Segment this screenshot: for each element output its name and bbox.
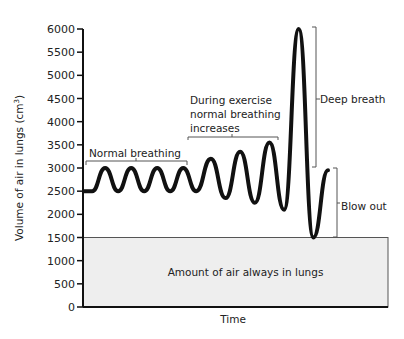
residual-volume-label: Amount of air always in lungs	[168, 266, 324, 278]
normal-breathing-bracket	[86, 158, 187, 165]
blow-out-bracket	[333, 168, 340, 237]
y-tick-label: 6000	[47, 23, 75, 36]
exercise-label-line3: increases	[190, 122, 240, 134]
x-axis-label: Time	[219, 313, 246, 325]
exercise-label-line2: normal breathing	[190, 108, 281, 120]
y-tick-label: 2500	[47, 185, 75, 198]
y-tick-label: 1500	[47, 232, 75, 245]
y-tick-label: 3500	[47, 139, 75, 152]
y-tick-label: 5000	[47, 69, 75, 82]
normal-breathing-label: Normal breathing	[89, 147, 181, 159]
lung-volume-chart: Amount of air always in lungs 0500100015…	[0, 0, 404, 339]
y-tick-label: 4500	[47, 93, 75, 106]
y-tick-label: 500	[54, 278, 75, 291]
y-tick-label: 5500	[47, 46, 75, 59]
blow-out-label: Blow out	[341, 200, 387, 212]
exercise-bracket	[188, 134, 278, 140]
y-tick-label: 2000	[47, 208, 75, 221]
deep-breath-bracket	[312, 27, 320, 167]
deep-breath-label: Deep breath	[320, 93, 385, 105]
y-axis-ticks: 0500100015002000250030003500400045005000…	[47, 23, 83, 314]
exercise-label-line1: During exercise	[190, 94, 272, 106]
y-tick-label: 3000	[47, 162, 75, 175]
y-tick-label: 0	[68, 301, 75, 314]
y-tick-label: 4000	[47, 116, 75, 129]
y-axis-label: Volume of air in lungs (cm3)	[13, 95, 25, 241]
y-tick-label: 1000	[47, 255, 75, 268]
